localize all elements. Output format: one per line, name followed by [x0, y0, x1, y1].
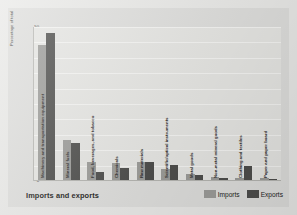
bar-imports: [235, 178, 244, 180]
bar-group: Clothing and textiles: [232, 27, 257, 180]
bar-group: Metal goods: [182, 27, 207, 180]
bar-exports: [145, 162, 154, 180]
category-label: Non-metal mineral goods: [213, 126, 218, 178]
bar-imports: [87, 162, 96, 180]
bar-imports: [161, 169, 170, 180]
bar-group: Food, beverages, and tobacco: [83, 27, 108, 180]
category-label: Paper and paper board: [263, 131, 268, 178]
bar-exports: [71, 143, 80, 180]
category-label: Clothing and textiles: [238, 135, 243, 178]
x-axis-baseline: [34, 180, 281, 181]
bar-imports: [112, 163, 121, 180]
bar-exports: [170, 165, 179, 180]
bar-imports: [260, 178, 269, 180]
bar-group: Chemicals: [108, 27, 133, 180]
plot-area: Machinery and transportation equipmentMi…: [33, 27, 281, 181]
bar-exports: [120, 168, 129, 180]
bar-exports: [195, 175, 204, 180]
bar-groups: Machinery and transportation equipmentMi…: [34, 27, 281, 180]
bar-exports: [46, 33, 55, 180]
chart-plot-card: Percentage of total 05101520253035404550…: [8, 8, 289, 207]
bar-imports: [63, 140, 72, 180]
bar-group: Paper and paper board: [256, 27, 281, 180]
y-axis-title: Percentage of total: [9, 0, 14, 46]
chart-title: Imports and exports: [26, 191, 99, 200]
legend-swatch: [204, 190, 216, 198]
bar-imports: [186, 174, 195, 180]
bar-group: Scientific/optical instruments: [158, 27, 183, 180]
legend: ImportsExports: [204, 190, 283, 198]
bar-exports: [244, 166, 253, 180]
bar-exports: [219, 178, 228, 180]
bar-group: Machinery and transportation equipment: [34, 27, 59, 180]
bar-exports: [96, 172, 105, 180]
bar-group: Mineral fuels: [59, 27, 84, 180]
bar-imports: [211, 177, 220, 180]
legend-label: Imports: [218, 191, 240, 198]
bar-group: Raw materials: [133, 27, 158, 180]
legend-item[interactable]: Imports: [204, 190, 240, 198]
legend-swatch: [247, 190, 259, 198]
bar-imports: [38, 45, 47, 180]
figure-container: Percentage of total 05101520253035404550…: [0, 0, 297, 215]
legend-label: Exports: [261, 191, 283, 198]
legend-item[interactable]: Exports: [247, 190, 283, 198]
bar-exports: [269, 179, 278, 180]
chart-footer: Imports and exports ImportsExports: [8, 185, 289, 207]
bar-imports: [137, 162, 146, 180]
bar-group: Non-metal mineral goods: [207, 27, 232, 180]
